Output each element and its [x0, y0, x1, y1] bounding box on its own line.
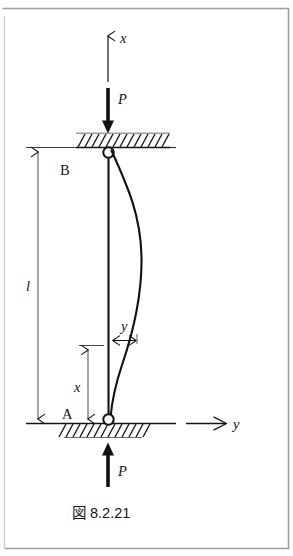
- bottom-load-label: P: [117, 463, 127, 479]
- bottom-support-label: A: [62, 406, 73, 422]
- y-dimension-label: y: [119, 318, 128, 334]
- bottom-support-hatching: [26, 424, 176, 438]
- figure-caption: 図 8.2.21: [72, 505, 130, 521]
- y-dimension: [113, 334, 137, 344]
- bottom-load-arrow: [102, 443, 114, 488]
- y-axis-label: y: [231, 416, 240, 432]
- top-load-arrow: [102, 88, 114, 134]
- x-dimension: [79, 346, 104, 420]
- length-label: l: [26, 278, 30, 294]
- x-axis-label: x: [119, 30, 127, 46]
- buckled-column-curve: [111, 151, 142, 418]
- bottom-pin-joint: [103, 414, 113, 424]
- figure-border: [3, 9, 289, 549]
- column-buckling-diagram: x P: [0, 0, 293, 556]
- top-support-label: B: [60, 162, 70, 178]
- figure-container: x P: [0, 0, 293, 556]
- top-load-label: P: [117, 91, 127, 107]
- x-dimension-label: x: [73, 379, 81, 395]
- top-support-hatching: [76, 133, 170, 147]
